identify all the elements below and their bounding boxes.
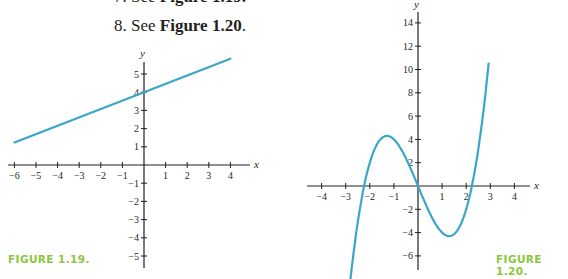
x-tick-label: −3: [340, 191, 351, 202]
y-tick-label: −6: [402, 250, 413, 261]
y-tick-label: 8: [408, 87, 413, 98]
figure-1-20-chart: xy−4−3−2−112341412108642−2−4−6: [0, 0, 568, 279]
y-tick-label: 12: [403, 41, 413, 52]
x-tick-label: −1: [389, 191, 400, 202]
y-tick-label: 4: [408, 134, 413, 145]
y-tick-label: 14: [403, 17, 413, 28]
figure-1-20-caption: FIGURE 1.20.: [496, 253, 568, 277]
x-tick-label: 4: [512, 191, 517, 202]
x-tick-label: 3: [488, 191, 493, 202]
y-tick-label: −2: [402, 204, 413, 215]
plot-curve: [351, 64, 489, 279]
x-tick-label: −2: [364, 191, 375, 202]
y-axis-label: y: [413, 0, 419, 10]
y-tick-label: −4: [402, 227, 413, 238]
y-tick-label: 6: [408, 111, 413, 122]
x-tick-label: −4: [316, 191, 327, 202]
y-tick-label: 10: [403, 64, 413, 75]
figure-1-19-caption: FIGURE 1.19.: [8, 253, 90, 265]
x-axis-label: x: [533, 179, 539, 191]
x-tick-label: 1: [440, 191, 445, 202]
